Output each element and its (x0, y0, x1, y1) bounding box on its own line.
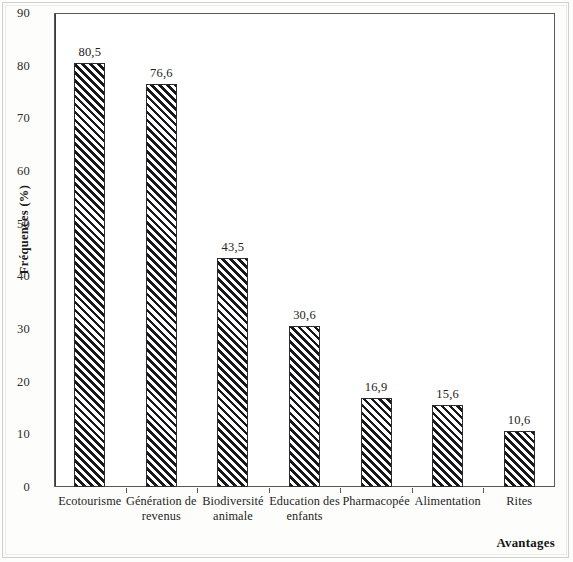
x-category-label-line: revenus (126, 509, 198, 524)
x-category-label: Pharmacopée (340, 494, 412, 509)
bar-value-label: 15,6 (418, 388, 478, 401)
bar (289, 326, 320, 487)
x-tick-mark (483, 488, 484, 493)
x-category-label-line: animale (197, 509, 269, 524)
bar (361, 398, 392, 487)
x-category-label: Alimentation (412, 494, 484, 509)
x-tick-mark (197, 488, 198, 493)
x-category-label-line: Education des (269, 494, 341, 509)
bar-value-label: 16,9 (346, 381, 406, 394)
chart-screenshot: 0102030405060708090 Fréquences (%) 80,57… (0, 0, 573, 562)
bar-value-label: 80,5 (60, 46, 120, 59)
x-category-label-line: Alimentation (412, 494, 484, 509)
x-tick-mark (269, 488, 270, 493)
bar-value-label: 10,6 (489, 414, 549, 427)
x-category-label: Education desenfants (269, 494, 341, 523)
bar-value-label: 43,5 (203, 241, 263, 254)
y-tick-label: 20 (17, 376, 30, 388)
x-category-label: Génération derevenus (126, 494, 198, 523)
x-axis-title: Avantages (496, 536, 555, 551)
bar (74, 63, 105, 487)
y-tick-label: 0 (24, 481, 30, 493)
bar (146, 84, 177, 487)
x-category-label-line: Pharmacopée (340, 494, 412, 509)
bar-value-label: 76,6 (131, 67, 191, 80)
y-tick-label: 70 (17, 112, 30, 124)
x-tick-mark (412, 488, 413, 493)
x-category-label: Biodiversitéanimale (197, 494, 269, 523)
bar (217, 258, 248, 487)
x-axis-labels: EcotourismeGénération derevenusBiodivers… (54, 494, 555, 534)
y-tick-label: 80 (17, 60, 30, 72)
x-category-label: Ecotourisme (54, 494, 126, 509)
x-category-label-line: Ecotourisme (54, 494, 126, 509)
x-category-label-line: enfants (269, 509, 341, 524)
bar (432, 405, 463, 487)
x-category-label: Rites (483, 494, 555, 509)
y-tick-label: 90 (17, 7, 30, 19)
y-tick-label: 10 (17, 428, 30, 440)
x-category-label-line: Génération de (126, 494, 198, 509)
bar-value-label: 30,6 (275, 309, 335, 322)
bar (504, 431, 535, 487)
x-tick-mark (340, 488, 341, 493)
x-category-label-line: Rites (483, 494, 555, 509)
y-tick-label: 30 (17, 323, 30, 335)
bars-layer (54, 13, 555, 487)
x-category-label-line: Biodiversité (197, 494, 269, 509)
y-axis-title: Fréquences (%) (17, 160, 32, 300)
x-tick-mark (126, 488, 127, 493)
